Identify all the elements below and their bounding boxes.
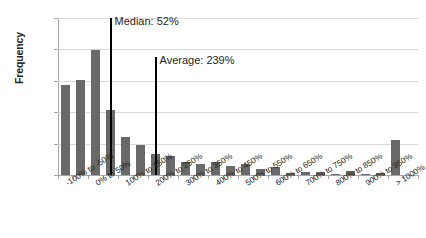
gridline (58, 81, 418, 82)
x-tick-mark (283, 175, 284, 179)
bar (256, 169, 265, 175)
bar (331, 174, 340, 175)
x-tick-mark (208, 175, 209, 179)
gridline (58, 49, 418, 50)
bar (241, 164, 250, 175)
x-tick-mark (313, 175, 314, 179)
x-tick-mark (103, 175, 104, 179)
x-tick-mark (373, 175, 374, 179)
median-marker-line (110, 18, 112, 175)
y-tick-mark (54, 81, 58, 82)
x-tick-mark (298, 175, 299, 179)
x-tick-mark (403, 175, 404, 179)
bar (286, 173, 295, 175)
x-tick-mark (58, 175, 59, 179)
x-tick-mark (418, 175, 419, 179)
x-tick-mark (268, 175, 269, 179)
x-tick-mark (343, 175, 344, 179)
bar (226, 166, 235, 175)
x-tick-mark (358, 175, 359, 179)
average-annotation-label: Average: 239% (160, 54, 235, 66)
bar (346, 171, 355, 175)
plot-area: 0%5%10%15%20%25%Median: 52%Average: 239% (58, 18, 418, 175)
average-marker-line (155, 57, 157, 175)
bar (76, 80, 85, 175)
bar (316, 172, 325, 175)
bar (121, 137, 130, 175)
x-tick-mark (163, 175, 164, 179)
y-axis-line (58, 18, 59, 176)
bar (391, 140, 400, 175)
x-tick-mark (328, 175, 329, 179)
x-tick-mark (223, 175, 224, 179)
bar (376, 173, 385, 175)
median-annotation-label: Median: 52% (115, 15, 179, 27)
bar (61, 85, 70, 175)
y-tick-mark (54, 49, 58, 50)
y-tick-mark (54, 18, 58, 19)
bar (211, 162, 220, 175)
bar (181, 162, 190, 175)
x-tick-mark (193, 175, 194, 179)
bar (91, 50, 100, 175)
x-tick-mark (118, 175, 119, 179)
x-tick-mark (133, 175, 134, 179)
x-tick-mark (88, 175, 89, 179)
x-tick-mark (148, 175, 149, 179)
x-tick-mark (73, 175, 74, 179)
bar (196, 164, 205, 175)
bar (301, 172, 310, 175)
y-axis-title: Frequency (13, 15, 25, 101)
x-tick-mark (388, 175, 389, 179)
bar (361, 174, 370, 175)
y-tick-mark (54, 112, 58, 113)
bar (136, 145, 145, 175)
x-tick-mark (178, 175, 179, 179)
x-tick-mark (238, 175, 239, 179)
y-tick-mark (54, 144, 58, 145)
x-tick-mark (253, 175, 254, 179)
bar (271, 167, 280, 175)
gridline (58, 18, 418, 19)
bar (166, 156, 175, 175)
